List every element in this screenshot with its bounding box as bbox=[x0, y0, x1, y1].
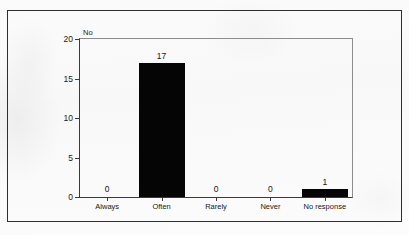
y-axis-tick bbox=[75, 197, 80, 198]
y-axis-tick-label: 10 bbox=[64, 113, 73, 123]
x-axis-tick bbox=[107, 197, 108, 201]
bar-value-label: 0 bbox=[214, 184, 219, 194]
bar: 17 bbox=[139, 63, 185, 197]
x-axis-tick bbox=[216, 197, 217, 201]
bar-value-label: 0 bbox=[105, 184, 110, 194]
plot-area: No 05101520 017001 AlwaysOftenRarelyNeve… bbox=[79, 38, 353, 198]
bar: 1 bbox=[302, 189, 348, 197]
y-axis-title: No bbox=[83, 28, 93, 37]
x-axis-category-label: Always bbox=[95, 202, 119, 211]
y-axis-tick-label: 20 bbox=[64, 34, 73, 44]
x-axis-category-label: No response bbox=[304, 202, 347, 211]
y-axis-tick-label: 5 bbox=[68, 153, 73, 163]
x-axis-tick bbox=[270, 197, 271, 201]
x-axis-tick bbox=[325, 197, 326, 201]
bar-value-label: 1 bbox=[322, 177, 327, 187]
y-axis-tick bbox=[75, 79, 80, 80]
bar-value-label: 17 bbox=[157, 51, 166, 61]
y-axis-tick-label: 0 bbox=[68, 192, 73, 202]
x-axis-category-label: Rarely bbox=[205, 202, 227, 211]
y-axis-tick bbox=[75, 39, 80, 40]
y-axis-tick-label: 15 bbox=[64, 74, 73, 84]
bar-value-label: 0 bbox=[268, 184, 273, 194]
x-axis-category-label: Never bbox=[260, 202, 280, 211]
cut-off-caption-text bbox=[70, 0, 342, 5]
y-axis-tick bbox=[75, 158, 80, 159]
x-axis-category-label: Often bbox=[152, 202, 170, 211]
x-axis-tick bbox=[162, 197, 163, 201]
y-axis-tick bbox=[75, 118, 80, 119]
